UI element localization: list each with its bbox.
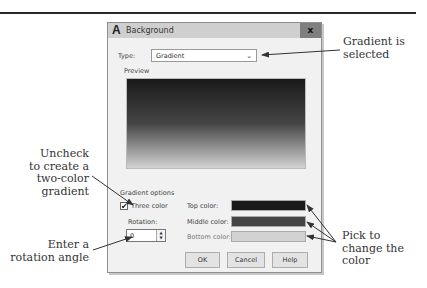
annotation-arrows — [0, 0, 427, 288]
